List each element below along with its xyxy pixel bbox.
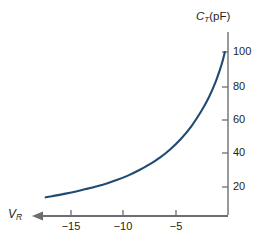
varactor-capacitance-chart: CT(pF) VR 100 80 60 40 20 −15 −10 −5 <box>0 0 262 245</box>
capacitance-curve <box>46 52 225 197</box>
y-tick-label-60: 60 <box>233 113 245 125</box>
x-axis-title: VR <box>8 207 22 222</box>
x-axis-title-subscript: R <box>16 212 22 222</box>
x-tick-label-minus15: −15 <box>56 220 86 232</box>
y-tick-label-20: 20 <box>233 180 245 192</box>
x-tick-label-minus5: −5 <box>163 220 189 232</box>
y-axis-title: CT(pF) <box>196 10 230 24</box>
x-axis-title-symbol: V <box>8 207 16 221</box>
x-axis-arrow-icon <box>32 212 43 221</box>
y-tick-label-80: 80 <box>233 80 245 92</box>
y-axis-title-unit: (pF) <box>209 10 230 22</box>
y-tick-label-100: 100 <box>233 45 251 57</box>
y-tick-label-40: 40 <box>233 146 245 158</box>
chart-canvas <box>0 0 262 245</box>
y-axis-ticks <box>222 52 228 187</box>
x-tick-label-minus10: −10 <box>108 220 138 232</box>
